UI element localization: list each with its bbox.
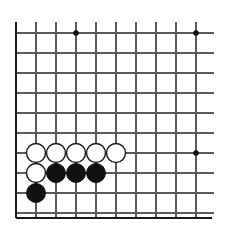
- star-point-right: [193, 150, 199, 156]
- white-stone-c2r7: [27, 144, 46, 163]
- grid-horizontal-lines: [16, 33, 214, 213]
- black-stone-c5r8: [87, 164, 106, 183]
- black-stone-c2r9: [27, 184, 46, 203]
- white-stone-c2r8: [27, 164, 46, 183]
- black-stone-c4r8: [67, 164, 86, 183]
- white-stone-c5r7: [87, 144, 106, 163]
- white-stone-c4r7: [67, 144, 86, 163]
- white-stone-c3r7: [47, 144, 66, 163]
- star-point-top-left: [73, 30, 79, 36]
- star-point-top-right: [193, 30, 199, 36]
- black-stone-c3r8: [47, 164, 66, 183]
- go-board-canvas: [0, 0, 225, 239]
- white-stone-c6r7: [107, 144, 126, 163]
- go-board-diagram: [0, 0, 225, 239]
- board-edge-lines: [16, 22, 212, 218]
